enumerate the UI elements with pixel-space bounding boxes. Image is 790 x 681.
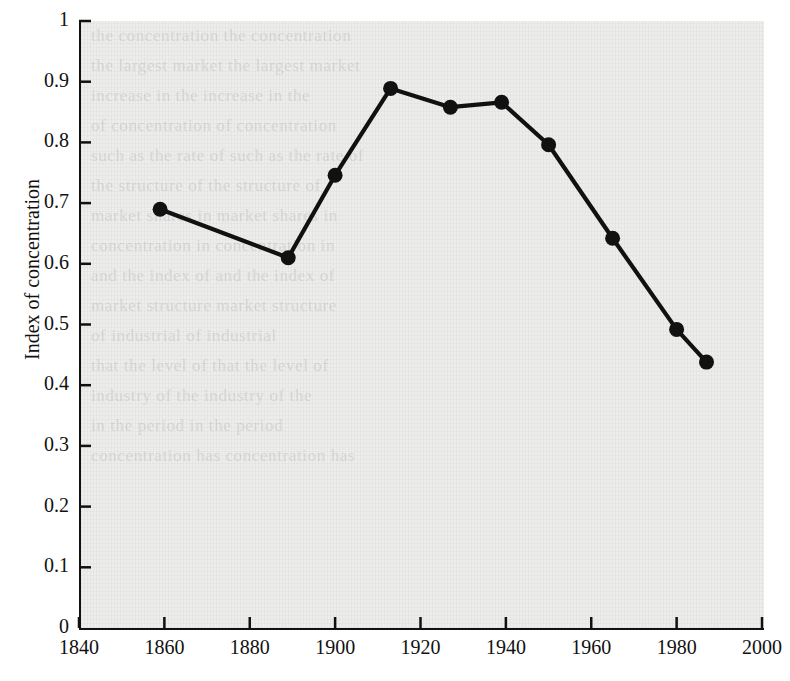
x-axis-tick-label: 1980 [637,636,717,659]
x-axis-tick-label: 2000 [722,636,790,659]
data-point-markers [153,81,714,370]
x-axis-tick-label: 1960 [551,636,631,659]
y-axis-tick-label: 0.2 [9,494,69,517]
data-point [281,250,296,265]
x-axis-tick-label: 1940 [466,636,546,659]
y-axis-tick-label: 0.9 [9,69,69,92]
y-axis-tick-label: 0.3 [9,433,69,456]
y-axis-ticks [79,21,91,567]
x-axis-tick-label: 1900 [295,636,375,659]
x-axis-ticks [79,617,762,628]
y-axis-label: Index of concentration [21,140,44,400]
data-point [383,81,398,96]
data-point [541,137,556,152]
data-point [328,168,343,183]
y-axis-tick-label: 0.1 [9,554,69,577]
data-point [699,355,714,370]
x-axis-tick-label: 1840 [39,636,119,659]
data-point [669,322,684,337]
x-axis-tick-label: 1860 [124,636,204,659]
data-point [443,100,458,115]
data-line [160,88,706,362]
x-axis-tick-label: 1880 [210,636,290,659]
y-axis-tick-label: 0 [9,615,69,638]
chart-svg [0,0,790,681]
x-axis-tick-label: 1920 [381,636,461,659]
y-axis-tick-label: 1 [9,8,69,31]
data-point [494,95,509,110]
data-point [153,202,168,217]
chart-figure: the concentration the concentrationthe l… [0,0,790,681]
data-point [605,231,620,246]
